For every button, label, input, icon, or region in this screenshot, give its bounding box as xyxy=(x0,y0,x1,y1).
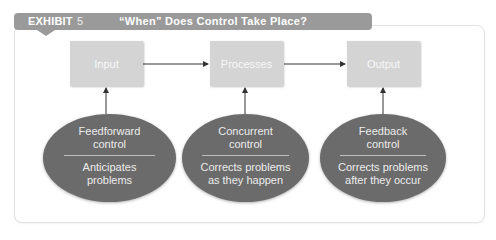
control-name: Concurrent control xyxy=(182,125,309,151)
feedforward-control-ellipse: Feedforward control Anticipates problems xyxy=(43,114,176,202)
output-box-label: Output xyxy=(367,58,400,70)
ellipse-divider xyxy=(64,155,154,156)
output-box: Output xyxy=(347,41,420,86)
ellipse-divider xyxy=(340,155,426,156)
input-box: Input xyxy=(70,41,143,86)
ellipse-divider xyxy=(202,155,288,156)
input-box-label: Input xyxy=(94,58,118,70)
processes-box-label: Processes xyxy=(221,58,272,70)
control-name: Feedback control xyxy=(320,125,446,151)
control-description: Anticipates problems xyxy=(43,161,176,187)
feedback-control-ellipse: Feedback control Corrects problems after… xyxy=(320,114,446,202)
control-description: Corrects problems as they happen xyxy=(182,161,309,187)
control-description: Corrects problems after they occur xyxy=(320,161,446,187)
concurrent-control-ellipse: Concurrent control Corrects problems as … xyxy=(182,114,309,202)
control-name: Feedforward control xyxy=(43,125,176,151)
processes-box: Processes xyxy=(210,41,283,86)
